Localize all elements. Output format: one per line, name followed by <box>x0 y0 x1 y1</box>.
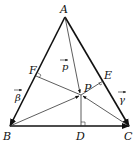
svg-text:p: p <box>62 61 69 72</box>
line-CF <box>36 76 81 95</box>
label-F: F <box>28 64 37 77</box>
side-AB <box>10 17 65 126</box>
vector-label-p: p <box>60 60 69 72</box>
svg-text:β: β <box>14 92 21 103</box>
label-D: D <box>75 130 85 143</box>
vector-label-beta: β <box>14 90 22 103</box>
label-E: E <box>103 69 112 82</box>
vector-label-gamma: γ <box>118 92 126 105</box>
label-C: C <box>124 130 133 143</box>
label-B: B <box>2 130 11 143</box>
svg-text:γ: γ <box>119 94 125 105</box>
label-P: P <box>83 82 92 95</box>
triangle-diagram: A B C D E F P p β γ <box>0 0 135 155</box>
side-AC <box>65 17 129 126</box>
label-A: A <box>59 3 68 16</box>
